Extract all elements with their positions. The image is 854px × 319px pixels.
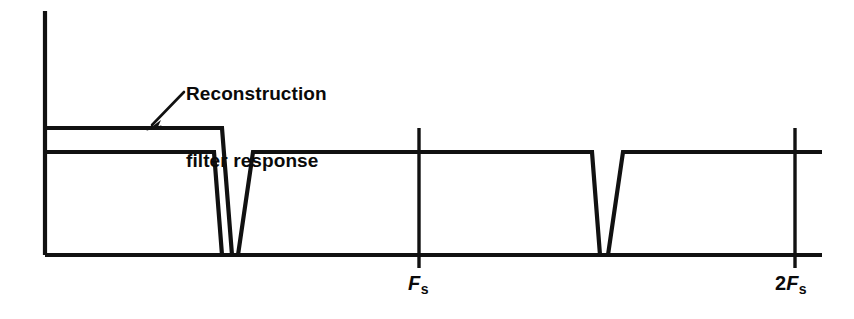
- annotation-reconstruction-filter-response: Reconstruction filter response: [186, 38, 327, 217]
- tick-label-fs: Fs: [408, 272, 429, 297]
- signal-spectrum-trace: [45, 152, 822, 255]
- tick-label-2fs-subscript: s: [799, 281, 807, 297]
- tick-label-2fs-symbol: F: [786, 272, 798, 294]
- annotation-line-2: filter response: [186, 150, 327, 172]
- tick-label-2fs: 2Fs: [775, 272, 807, 297]
- tick-label-fs-symbol: F: [408, 272, 420, 294]
- annotation-line-1: Reconstruction: [186, 83, 327, 105]
- tick-label-2fs-lead: 2: [775, 272, 786, 294]
- tick-label-fs-subscript: s: [421, 281, 429, 297]
- annotation-leader-line: [152, 92, 184, 125]
- figure-root: Reconstruction filter response Fs 2Fs: [0, 0, 854, 319]
